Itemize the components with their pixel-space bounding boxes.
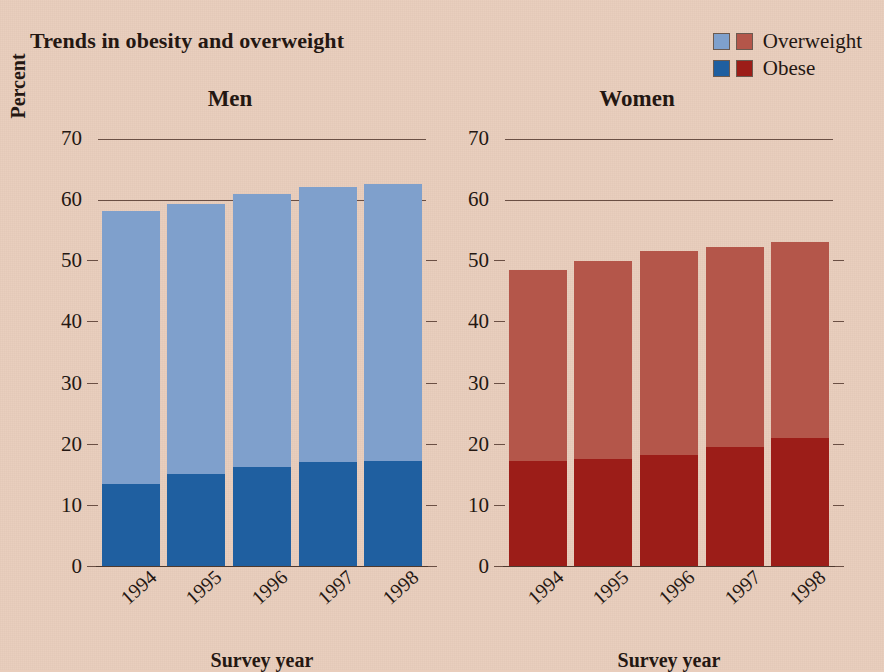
plot-area-men: 706050403020100 19941995199619971998 Sur… [98, 139, 426, 567]
y-tick-label-60: 60 [61, 187, 82, 212]
segment-obese [574, 459, 632, 567]
bar-men-1997 [299, 187, 357, 567]
y-tick-label-20: 20 [61, 432, 82, 457]
y-tick-label-0: 0 [479, 554, 490, 579]
x-tick-label-1997: 1997 [720, 566, 765, 610]
legend-swatch-obese-women [736, 60, 753, 77]
x-tick-label-1996: 1996 [247, 566, 292, 610]
segment-obese [640, 455, 698, 567]
x-tick-label-1998: 1998 [378, 566, 423, 610]
x-tick-label-1995: 1995 [589, 566, 634, 610]
y-tick-label-10: 10 [61, 493, 82, 518]
legend-swatch-overweight-women [736, 33, 753, 50]
y-tick-label-0: 0 [72, 554, 83, 579]
bar-men-1998 [364, 184, 422, 567]
panel-title-women: Women [437, 86, 837, 112]
legend-item-obese: Obese [713, 57, 862, 79]
y-tick-label-20: 20 [468, 432, 489, 457]
x-tick-label-1998: 1998 [785, 566, 830, 610]
bar-men-1995 [167, 204, 225, 567]
segment-obese [509, 461, 567, 567]
legend-swatch-overweight-men [713, 33, 730, 50]
bar-women-1998 [771, 242, 829, 567]
y-axis-label: Percent [7, 53, 30, 118]
segment-obese [233, 467, 291, 567]
y-tick-label-40: 40 [468, 309, 489, 334]
legend-swatch-obese-men [713, 60, 730, 77]
bar-women-1996 [640, 251, 698, 567]
y-tick-label-70: 70 [468, 126, 489, 151]
x-axis-line-men [96, 566, 428, 567]
segment-obese [771, 438, 829, 567]
legend-item-overweight: Overweight [713, 30, 862, 52]
y-tick-label-70: 70 [61, 126, 82, 151]
x-tick-label-1994: 1994 [523, 566, 568, 610]
x-tick-label-1995: 1995 [182, 566, 227, 610]
legend-label-overweight: Overweight [763, 31, 862, 52]
legend-label-obese: Obese [763, 58, 815, 79]
y-tick-label-10: 10 [468, 493, 489, 518]
y-tick-label-50: 50 [468, 248, 489, 273]
x-tick-label-1997: 1997 [313, 566, 358, 610]
x-tick-label-1994: 1994 [116, 566, 161, 610]
bar-men-1996 [233, 194, 291, 567]
y-tick-label-60: 60 [468, 187, 489, 212]
bar-women-1994 [509, 270, 567, 567]
bar-men-1994 [102, 211, 160, 567]
segment-obese [167, 474, 225, 567]
x-tick-label-1996: 1996 [654, 566, 699, 610]
chart-legend: Overweight Obese [713, 30, 862, 79]
x-axis-line-women [503, 566, 835, 567]
segment-obese [299, 462, 357, 567]
x-axis-label-men: Survey year [98, 649, 426, 672]
segment-obese [706, 447, 764, 567]
y-tick-label-30: 30 [61, 371, 82, 396]
page-title: Trends in obesity and overweight [30, 28, 344, 54]
bars-women: 19941995199619971998 [505, 139, 833, 567]
panel-title-men: Men [30, 86, 430, 112]
bar-women-1997 [706, 247, 764, 567]
x-axis-label-women: Survey year [505, 649, 833, 672]
segment-obese [102, 484, 160, 567]
bars-men: 19941995199619971998 [98, 139, 426, 567]
segment-obese [364, 461, 422, 567]
plot-area-women: 706050403020100 19941995199619971998 Sur… [505, 139, 833, 567]
bar-women-1995 [574, 261, 632, 567]
y-tick-label-40: 40 [61, 309, 82, 334]
y-tick-label-50: 50 [61, 248, 82, 273]
y-tick-label-30: 30 [468, 371, 489, 396]
